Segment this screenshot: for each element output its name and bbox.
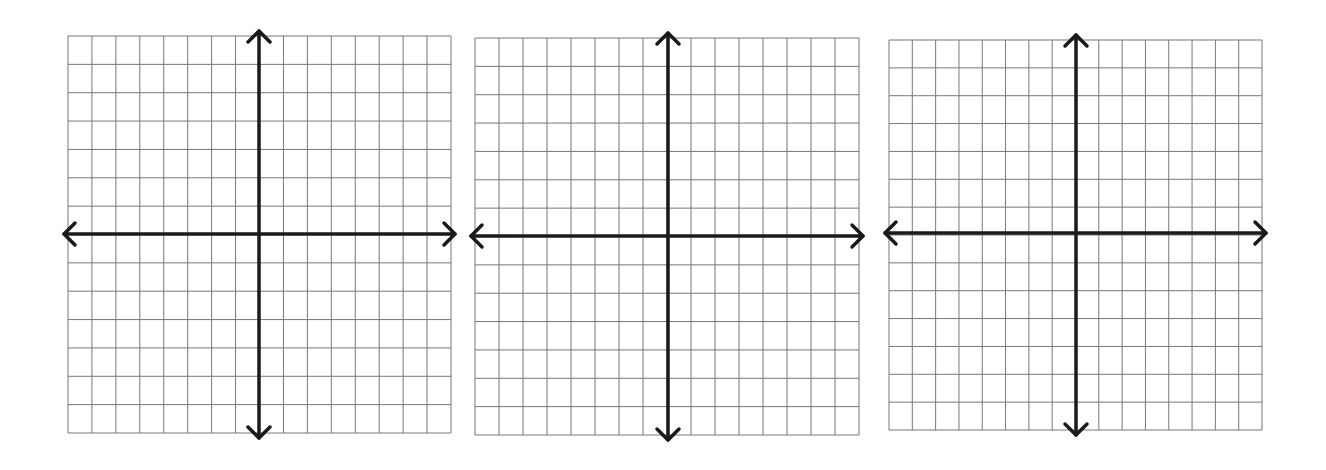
coordinate-plane-3: [877, 28, 1274, 442]
grid-lines: [471, 33, 863, 440]
grid-lines: [64, 31, 455, 438]
grid-lines: [885, 35, 1266, 435]
coordinate-plane-1: [56, 24, 463, 445]
coordinate-plane-2: [463, 26, 871, 447]
